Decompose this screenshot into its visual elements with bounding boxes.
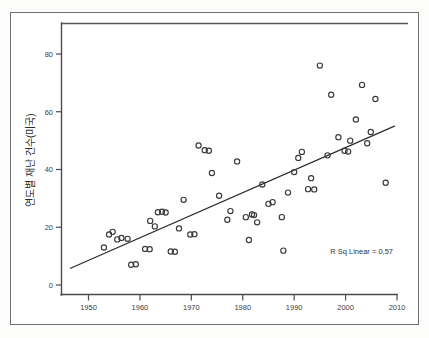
x-tick-label: 1990 [286, 303, 303, 312]
scatter-point [234, 159, 239, 164]
scatter-point [383, 180, 388, 185]
scatter-point [255, 220, 260, 225]
x-tick-label: 1960 [132, 303, 149, 312]
scatter-point [152, 224, 157, 229]
scatter-point [365, 141, 370, 146]
scatter-point [163, 210, 168, 215]
scatter-point [353, 117, 358, 122]
y-tick-label: 20 [45, 223, 53, 232]
scatter-point [225, 217, 230, 222]
scatter-point [101, 245, 106, 250]
scatter-point [329, 92, 334, 97]
y-tick-label: 60 [45, 108, 53, 117]
scatter-point [246, 237, 251, 242]
scatter-point [299, 149, 304, 154]
scatter-point [312, 187, 317, 192]
y-axis-title: 연도별 재난 건수(미국) [25, 113, 36, 206]
scatter-chart: 020406080 1950196019701980199020002010 연… [0, 0, 429, 338]
scatter-point [359, 82, 364, 87]
y-tick-label: 0 [49, 281, 53, 290]
scatter-point [228, 208, 233, 213]
scatter-point [309, 176, 314, 181]
scatter-point [181, 197, 186, 202]
y-tick-label: 80 [45, 50, 53, 59]
scatter-point [216, 193, 221, 198]
y-axis-ticks: 020406080 [45, 50, 62, 290]
x-tick-label: 1980 [234, 303, 251, 312]
chart-svg: 020406080 1950196019701980199020002010 연… [0, 0, 429, 338]
scatter-point-group [101, 63, 388, 267]
scatter-point [148, 218, 153, 223]
scatter-point [209, 170, 214, 175]
scatter-point [196, 143, 201, 148]
x-axis-ticks: 1950196019701980199020002010 [80, 295, 405, 313]
r-squared-annotation: R Sq Linear = 0,57 [330, 247, 393, 256]
scatter-point [279, 215, 284, 220]
scatter-point [373, 96, 378, 101]
scatter-point [305, 187, 310, 192]
scatter-point [336, 135, 341, 140]
scatter-point [346, 149, 351, 154]
scatter-point [342, 148, 347, 153]
scatter-point [285, 190, 290, 195]
scatter-point [243, 215, 248, 220]
scatter-point [281, 248, 286, 253]
scatter-point [296, 155, 301, 160]
x-tick-label: 2010 [389, 303, 406, 312]
scatter-point [348, 138, 353, 143]
scatter-point [368, 129, 373, 134]
scatter-point [176, 226, 181, 231]
x-tick-label: 1970 [183, 303, 200, 312]
scatter-point [125, 236, 130, 241]
figure-root: 020406080 1950196019701980199020002010 연… [0, 0, 429, 338]
x-tick-label: 1950 [80, 303, 97, 312]
y-tick-label: 40 [45, 165, 53, 174]
scatter-point [317, 63, 322, 68]
x-tick-label: 2000 [337, 303, 354, 312]
